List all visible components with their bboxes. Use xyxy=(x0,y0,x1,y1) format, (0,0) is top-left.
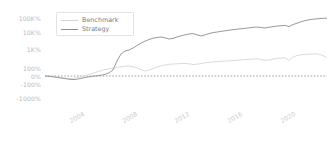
y-tick-label: 1K% xyxy=(0,46,41,53)
y-tick-label: 100% xyxy=(0,65,41,72)
legend-swatch-benchmark xyxy=(61,20,78,21)
legend-swatch-strategy xyxy=(61,29,78,30)
legend-label-strategy: Strategy xyxy=(82,25,109,34)
y-tick-label: -100% xyxy=(0,81,41,88)
x-tick-label: 2016 xyxy=(226,110,243,124)
y-tick-label: -1000% xyxy=(0,95,41,102)
y-tick-label: 0% xyxy=(0,73,41,80)
chart-container: 100K%10K%1K%100%0%-100%-1000% 2004200820… xyxy=(0,0,329,148)
legend-item-benchmark[interactable]: Benchmark xyxy=(61,16,129,25)
legend-label-benchmark: Benchmark xyxy=(82,16,118,25)
x-tick-label: 2012 xyxy=(173,110,190,124)
series-line-benchmark xyxy=(45,54,327,79)
chart-legend: Benchmark Strategy xyxy=(56,12,134,36)
x-tick-label: 2020 xyxy=(279,110,296,124)
x-tick-label: 2008 xyxy=(121,110,138,124)
y-tick-label: 10K% xyxy=(0,29,41,36)
x-tick-label: 2004 xyxy=(68,110,85,124)
legend-item-strategy[interactable]: Strategy xyxy=(61,25,129,34)
y-tick-label: 100K% xyxy=(0,15,41,22)
